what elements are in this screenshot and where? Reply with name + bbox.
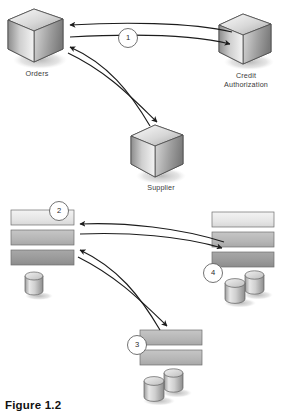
figure-caption: Figure 1.2 — [5, 399, 61, 411]
right-stack-bars — [212, 212, 274, 267]
left-stack-bar-2 — [11, 230, 74, 245]
arrow-supplier-to-orders — [70, 47, 150, 126]
right-stack-bar-1 — [212, 212, 274, 227]
node-right-stack — [212, 212, 274, 308]
right-stack-bar-2 — [212, 232, 274, 247]
left-stack-cylinder-1 — [25, 272, 53, 300]
center-stack-bar-2 — [140, 350, 202, 365]
node-left-stack — [11, 210, 74, 300]
supplier-cube-icon — [131, 125, 183, 177]
node-orders — [8, 9, 67, 69]
arrow-left-to-center-stack — [78, 257, 167, 326]
arrow-credit-to-orders — [70, 23, 232, 32]
top-flow-arrows — [68, 23, 232, 126]
bottom-flow-arrows — [78, 224, 224, 330]
right-stack-cylinder-2 — [243, 271, 273, 300]
step-marker-3-circle — [128, 336, 147, 355]
arrow-center-to-left-stack — [80, 250, 160, 330]
step-marker-2-circle — [50, 202, 69, 221]
step-marker-1-circle — [119, 29, 138, 48]
arrow-right-to-left-stack — [80, 224, 224, 242]
node-credit-authorization — [219, 14, 274, 70]
node-supplier — [131, 125, 186, 184]
node-center-stack — [140, 330, 202, 406]
step-marker-1 — [119, 29, 138, 48]
step-marker-4-circle — [204, 264, 223, 283]
left-stack-bar-3 — [11, 250, 74, 265]
right-stack-bar-3 — [212, 252, 274, 267]
arrow-orders-to-credit — [70, 35, 230, 44]
center-stack-bars — [140, 330, 202, 365]
center-stack-bar-1 — [140, 330, 202, 345]
arrow-orders-to-supplier — [68, 53, 157, 122]
center-stack-cylinder-2 — [162, 369, 192, 398]
diagram-canvas — [0, 0, 285, 419]
figure-container: Orders Credit Authorization Supplier 1 2… — [0, 0, 285, 419]
